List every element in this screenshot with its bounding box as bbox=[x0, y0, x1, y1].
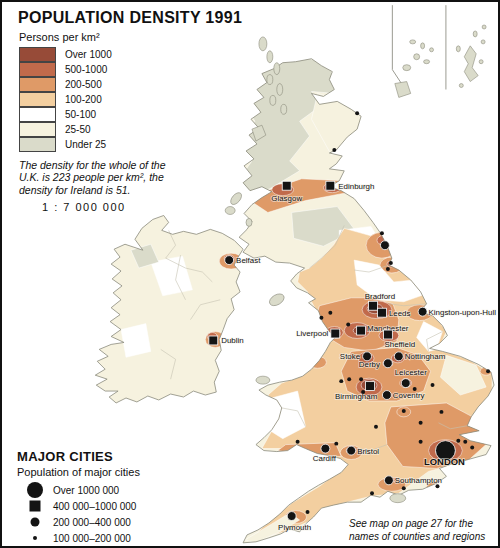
density-swatch bbox=[19, 92, 56, 107]
unlabeled-city-dot bbox=[332, 148, 336, 152]
unlabeled-city-dot bbox=[319, 316, 323, 320]
unlabeled-city-dot bbox=[419, 440, 423, 444]
unlabeled-city-dot bbox=[328, 311, 332, 315]
city-marker-liverpool bbox=[331, 329, 340, 338]
unlabeled-city-dot bbox=[355, 111, 359, 115]
density-note: The density for the whole of the U.K. is… bbox=[19, 159, 199, 196]
city-marker-glasgow bbox=[282, 181, 291, 190]
density-unit-label: Persons per km² bbox=[19, 31, 100, 43]
unlabeled-city-dot bbox=[439, 410, 443, 414]
unlabeled-city-dot bbox=[359, 377, 363, 381]
density-class-label: 25-50 bbox=[65, 124, 91, 135]
city-label: Cardiff bbox=[313, 454, 337, 463]
unlabeled-city-dot bbox=[463, 440, 467, 444]
unlabeled-city-dot bbox=[402, 409, 406, 413]
unlabeled-city-dot bbox=[389, 261, 393, 265]
unlabeled-city-dot bbox=[296, 440, 300, 444]
city-label: Southampton bbox=[395, 476, 442, 485]
density-legend-row: Over 1000 bbox=[19, 47, 112, 62]
city-size-legend-row: 100 000–200 000 bbox=[17, 530, 140, 546]
city-label: Glasgow bbox=[271, 194, 302, 203]
unlabeled-city-dot bbox=[413, 387, 417, 391]
major-cities-title: MAJOR CITIES bbox=[17, 449, 140, 464]
city-marker-coventry bbox=[382, 391, 391, 400]
map-title: POPULATION DENSITY 1991 bbox=[18, 9, 242, 27]
city-marker-nottingham bbox=[394, 352, 403, 361]
unlabeled-city-dot bbox=[386, 267, 390, 271]
density-swatch bbox=[19, 107, 56, 122]
density-class-label: Under 25 bbox=[65, 139, 106, 150]
city-label: Derby bbox=[359, 360, 380, 369]
note-line: U.K. is 223 people per km², the bbox=[19, 171, 199, 183]
city-label: Stoke bbox=[340, 352, 361, 361]
density-legend-row: 200-500 bbox=[19, 77, 112, 92]
page-footnote: See map on page 27 for the names of coun… bbox=[349, 518, 499, 543]
city-marker-derby bbox=[383, 359, 392, 368]
unlabeled-city-dot bbox=[306, 510, 310, 514]
city-marker-dublin bbox=[209, 336, 218, 345]
city-size-legend-row: 400 000–1000 000 bbox=[17, 498, 140, 514]
city-marker-edinburgh bbox=[326, 181, 335, 190]
city-label: LONDON bbox=[424, 456, 465, 467]
city-marker-leeds bbox=[377, 308, 386, 317]
density-class-label: 100-200 bbox=[65, 94, 102, 105]
atlas-page: GlasgowEdinburghBelfastDublinBradfordLee… bbox=[0, 0, 500, 548]
unlabeled-city-dot bbox=[456, 439, 460, 443]
unlabeled-city-dot bbox=[346, 323, 350, 327]
city-label: Liverpool bbox=[296, 329, 328, 338]
city-label: Birmingham bbox=[335, 392, 378, 401]
density-swatch bbox=[19, 62, 56, 77]
density-legend: Over 1000500-1000200-500100-20050-10025-… bbox=[19, 47, 112, 152]
city-size-label: 400 000–1000 000 bbox=[53, 501, 136, 512]
note-line: The density for the whole of the bbox=[19, 159, 199, 171]
city-marker-belfast bbox=[225, 256, 234, 265]
unlabeled-city-dot bbox=[347, 377, 351, 381]
city-label: Sheffield bbox=[384, 340, 415, 349]
city-label: Leicester bbox=[395, 368, 428, 377]
density-legend-row: Under 25 bbox=[19, 137, 112, 152]
footnote-line: See map on page 27 for the bbox=[349, 518, 499, 531]
density-class-label: Over 1000 bbox=[65, 49, 112, 60]
unlabeled-city-dot bbox=[470, 446, 474, 450]
unlabeled-city-dot bbox=[361, 390, 365, 394]
map-scale: 1 : 7 000 000 bbox=[42, 201, 126, 213]
unlabeled-city-dot bbox=[380, 231, 384, 235]
city-marker-bristol bbox=[347, 446, 356, 455]
density-legend-row: 50-100 bbox=[19, 107, 112, 122]
city-marker-birmingham bbox=[366, 382, 375, 391]
city-marker-southampton bbox=[384, 476, 393, 485]
city-marker-leicester bbox=[401, 379, 410, 388]
city-size-legend-row: Over 1000 000 bbox=[17, 482, 140, 498]
unlabeled-city-dot bbox=[339, 379, 343, 383]
city-label: Nottingham bbox=[405, 352, 446, 361]
city-marker-bradford bbox=[369, 301, 378, 310]
density-swatch bbox=[19, 77, 56, 92]
city-marker-manchester bbox=[357, 326, 366, 335]
inset-boxes bbox=[392, 5, 446, 89]
unlabeled-city-dot bbox=[370, 491, 374, 495]
city-label: Edinburgh bbox=[338, 182, 374, 191]
city-size-legend-row: 200 000–400 000 bbox=[17, 514, 140, 530]
city-label: Coventry bbox=[393, 391, 425, 400]
density-swatch bbox=[19, 137, 56, 152]
unlabeled-city-dot bbox=[486, 369, 490, 373]
density-swatch bbox=[19, 47, 56, 62]
city-marker-cardiff bbox=[321, 444, 330, 453]
unlabeled-city-dot bbox=[419, 421, 423, 425]
density-class-label: 500-1000 bbox=[65, 64, 107, 75]
city-marker-plymouth bbox=[287, 512, 296, 521]
city-size-label: 100 000–200 000 bbox=[53, 533, 131, 544]
density-class-label: 50-100 bbox=[65, 109, 96, 120]
unlabeled-city-dot bbox=[374, 425, 378, 429]
city-label: Dublin bbox=[221, 336, 243, 345]
density-swatch bbox=[19, 122, 56, 137]
major-cities-subtitle: Population of major cities bbox=[17, 466, 140, 478]
city-label: Bradford bbox=[365, 292, 395, 301]
unlabeled-city-dot bbox=[436, 484, 440, 488]
density-class-label: 200-500 bbox=[65, 79, 102, 90]
city-size-label: 200 000–400 000 bbox=[53, 517, 131, 528]
city-marker-kingston-upon-hull bbox=[418, 307, 427, 316]
city-label: Bristol bbox=[357, 447, 379, 456]
city-label: Leeds bbox=[389, 309, 411, 318]
dot-icon bbox=[17, 529, 53, 547]
